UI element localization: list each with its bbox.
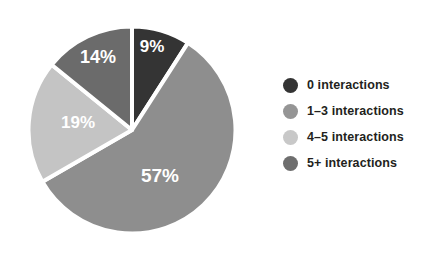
chart-legend: 0 interactions 1–3 interactions 4–5 inte… bbox=[283, 72, 441, 176]
legend-label: 4–5 interactions bbox=[307, 130, 404, 144]
pie-chart-svg: 9% 57% 19% 14% bbox=[28, 26, 236, 234]
legend-label: 5+ interactions bbox=[307, 156, 397, 170]
legend-item-0-interactions[interactable]: 0 interactions bbox=[283, 72, 441, 98]
slice-label-3: 14% bbox=[80, 47, 116, 67]
pie-chart-figure: 9% 57% 19% 14% 0 interactions 1–3 intera… bbox=[0, 0, 443, 263]
legend-label: 0 interactions bbox=[307, 78, 390, 92]
slice-label-0: 9% bbox=[140, 37, 165, 56]
legend-item-5-plus-interactions[interactable]: 5+ interactions bbox=[283, 150, 441, 176]
pie-slice-group bbox=[29, 27, 236, 234]
pie-chart: 9% 57% 19% 14% bbox=[28, 26, 236, 234]
legend-dot-icon bbox=[283, 156, 298, 171]
legend-dot-icon bbox=[283, 130, 298, 145]
slice-label-1: 57% bbox=[141, 165, 179, 186]
slice-label-2: 19% bbox=[61, 113, 95, 132]
legend-item-4-5-interactions[interactable]: 4–5 interactions bbox=[283, 124, 441, 150]
legend-label: 1–3 interactions bbox=[307, 104, 404, 118]
legend-item-1-3-interactions[interactable]: 1–3 interactions bbox=[283, 98, 441, 124]
legend-dot-icon bbox=[283, 78, 298, 93]
legend-dot-icon bbox=[283, 104, 298, 119]
